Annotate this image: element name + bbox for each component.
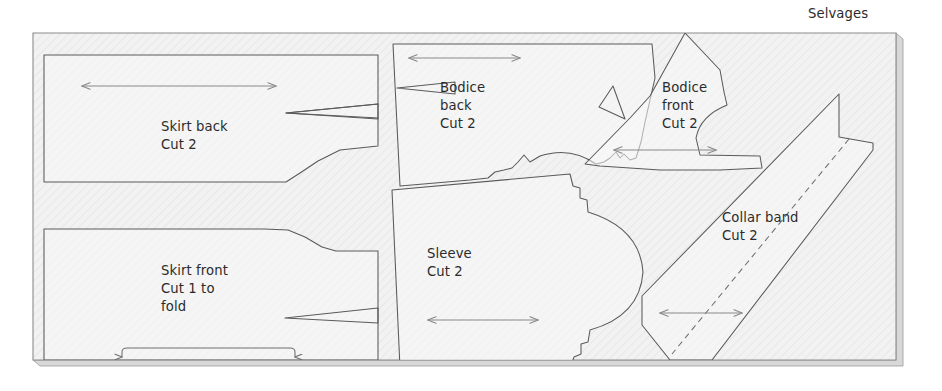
bodice-back-label-line1: Bodice: [440, 80, 485, 95]
skirt-front-label-line3: fold: [161, 299, 186, 314]
sleeve-label-line2: Cut 2: [427, 264, 463, 279]
skirt-back-label-line1: Skirt back: [161, 119, 228, 134]
skirt-front-label-line1: Skirt front: [161, 263, 228, 278]
skirt-front-label-line2: Cut 1 to: [161, 281, 215, 296]
pattern-layout-diagram: Skirt back Cut 2 Skirt front Cut 1 to fo…: [0, 0, 942, 391]
bodice-front-label-line2: front: [662, 98, 694, 113]
layout-canvas: Skirt back Cut 2 Skirt front Cut 1 to fo…: [0, 0, 942, 391]
skirt-back-label-line2: Cut 2: [161, 137, 197, 152]
bodice-back-label-line2: back: [440, 98, 472, 113]
collar-band-label-line1: Collar band: [722, 210, 799, 225]
selvages-label: Selvages: [808, 6, 868, 21]
bodice-front-label-line3: Cut 2: [662, 116, 698, 131]
collar-band-label-line2: Cut 2: [722, 228, 758, 243]
sleeve-label-line1: Sleeve: [427, 246, 472, 261]
piece-skirt-front: Skirt front Cut 1 to fold: [44, 229, 378, 360]
bodice-front-label-line1: Bodice: [662, 80, 707, 95]
bodice-back-label-line3: Cut 2: [440, 116, 476, 131]
